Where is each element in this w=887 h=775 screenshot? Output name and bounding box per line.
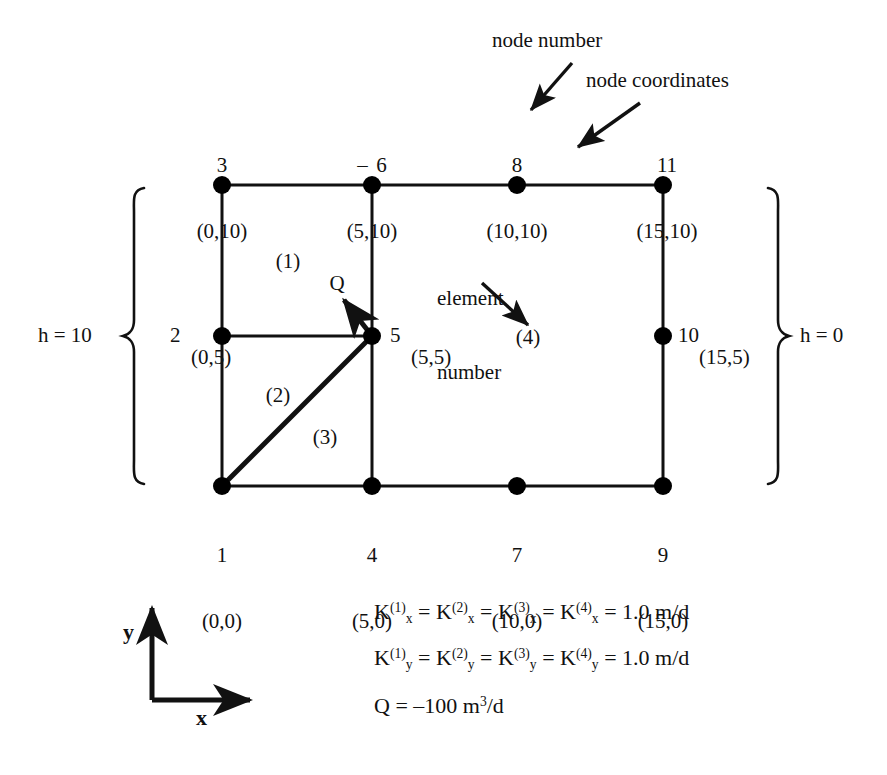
element-label-3: (3) — [313, 426, 338, 448]
node-coords-2: (0,5) — [191, 345, 231, 369]
ky-term-3: K — [498, 645, 514, 670]
ky-sub-1: y — [406, 657, 413, 672]
ky-term-1: K — [374, 645, 390, 670]
edge-diagonal — [222, 336, 372, 486]
ky-value: 1.0 m/d — [622, 645, 689, 670]
node-number-2: 2 — [170, 323, 181, 347]
kx-value: 1.0 m/d — [622, 599, 689, 624]
node-number-10: 10 — [678, 323, 699, 347]
node-number-5: 5 — [390, 323, 401, 347]
node-number-4: 4 — [352, 544, 392, 566]
ky-sup-3: (3) — [514, 646, 530, 661]
boundary-condition-right: h = 0 — [800, 324, 843, 346]
ky-sup-4: (4) — [576, 646, 592, 661]
q-exponent: 3 — [480, 694, 487, 709]
node-label-3: 3 (0,10) — [197, 110, 248, 286]
element-label-1: (1) — [276, 250, 301, 272]
annotation-element-number-line1: element — [437, 286, 503, 311]
node-label-1: 1 (0,0) — [202, 500, 242, 676]
element-label-4: (4) — [516, 326, 541, 348]
kx-sup-3: (3) — [514, 600, 530, 615]
kx-sup-2: (2) — [452, 600, 468, 615]
equation-ky: K(1)y = K(2)y = K(3)y = K(4)y = 1.0 m/d — [374, 646, 689, 672]
boundary-condition-left: h = 10 — [38, 324, 92, 346]
annotation-node-coordinates: node coordinates — [586, 68, 729, 93]
node-coords-11: (15,10) — [636, 220, 697, 242]
node-label-6: – 6 (5,10) — [347, 110, 398, 286]
ky-sup-1: (1) — [390, 646, 406, 661]
node-number-leader-arrow — [531, 63, 572, 110]
node-coords-1: (0,0) — [202, 610, 242, 632]
q-value: –100 m — [413, 693, 480, 718]
kx-term-3: K — [498, 599, 514, 624]
node-label-11: 11 (15,10) — [636, 110, 697, 286]
annotation-element-number: element number — [437, 236, 503, 434]
diagram-canvas: 3 (0,10) – 6 (5,10) 8 (10,10) 11 (15,10)… — [0, 0, 887, 775]
node-coordinates-leader-arrow — [578, 103, 640, 147]
kx-sup-4: (4) — [576, 600, 592, 615]
right-boundary-brace — [768, 188, 789, 484]
node-number-6-row: – 6 — [347, 154, 398, 176]
node-number-8: 8 — [486, 154, 547, 176]
node-dot-1 — [213, 477, 231, 495]
node-coords-10: (15,5) — [699, 345, 750, 369]
left-boundary-brace — [123, 188, 144, 484]
element-label-2: (2) — [266, 384, 291, 406]
ky-term-4: K — [560, 645, 576, 670]
kx-term-4: K — [560, 599, 576, 624]
node-number-7: 7 — [492, 544, 543, 566]
kx-sub-1: x — [406, 611, 413, 626]
node-coords-6: (5,10) — [347, 220, 398, 242]
ky-sub-4: y — [592, 657, 599, 672]
node-dot-5 — [363, 327, 381, 345]
node-dot-7 — [508, 477, 526, 495]
ky-sub-3: y — [530, 657, 537, 672]
ky-sub-2: y — [468, 657, 475, 672]
node-dot-10 — [654, 327, 672, 345]
node-dot-4 — [363, 477, 381, 495]
kx-sub-4: x — [592, 611, 599, 626]
kx-term-1: K — [374, 599, 390, 624]
q-source-label: Q — [329, 272, 344, 294]
node-number-9: 9 — [638, 544, 689, 566]
kx-sup-1: (1) — [390, 600, 406, 615]
equation-kx: K(1)x = K(2)x = K(3)x = K(4)x = 1.0 m/d — [374, 600, 689, 626]
x-axis-label: x — [196, 706, 207, 729]
node-label-2: 2 (0,5) — [170, 324, 231, 368]
y-axis-label: y — [123, 620, 134, 643]
ky-sup-2: (2) — [452, 646, 468, 661]
annotation-element-number-line2: number — [437, 360, 503, 385]
node-coords-3: (0,10) — [197, 220, 248, 242]
dash-marker-icon: – — [357, 153, 368, 177]
q-symbol: Q — [374, 693, 390, 718]
equation-q: Q = –100 m3/d — [374, 694, 504, 717]
node-number-11: 11 — [636, 154, 697, 176]
node-number-6: 6 — [376, 153, 387, 177]
kx-sub-2: x — [468, 611, 475, 626]
annotation-node-number: node number — [492, 28, 602, 53]
ky-term-2: K — [436, 645, 452, 670]
node-number-1: 1 — [202, 544, 242, 566]
node-label-10: 10 (15,5) — [678, 324, 750, 368]
kx-term-2: K — [436, 599, 452, 624]
q-units: /d — [487, 693, 504, 718]
node-dot-9 — [654, 477, 672, 495]
kx-sub-3: x — [530, 611, 537, 626]
node-number-3: 3 — [197, 154, 248, 176]
